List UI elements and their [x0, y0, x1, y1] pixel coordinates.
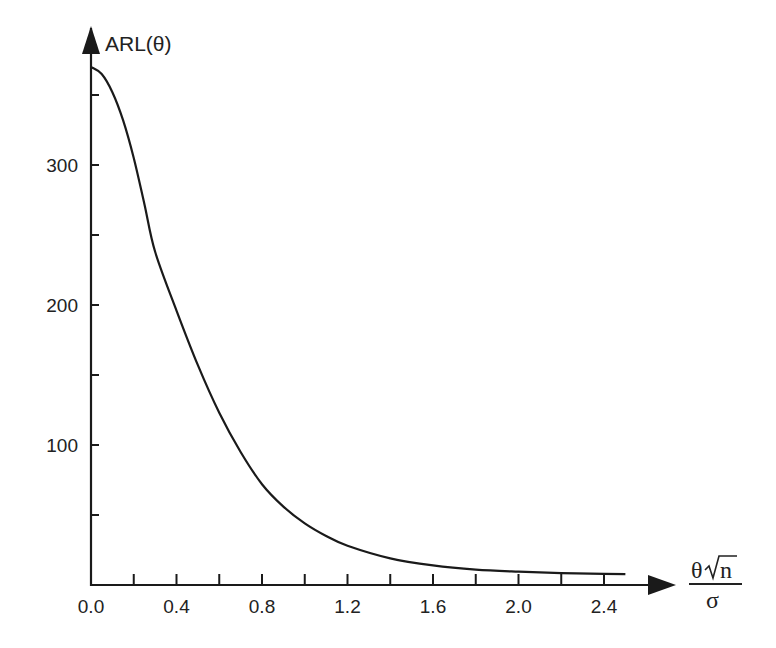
x-tick-label: 2.4: [591, 596, 618, 617]
y-tick-label: 300: [46, 155, 78, 176]
x-tick-label: 0.0: [78, 596, 104, 617]
y-axis-arrow-icon: [82, 26, 100, 54]
x-axis-title-n: n: [720, 557, 732, 583]
x-axis: 0.00.40.81.21.62.02.4: [78, 574, 676, 617]
y-axis-title: ARL(θ): [105, 32, 172, 55]
x-tick-label: 1.2: [334, 596, 360, 617]
arl-curve: [91, 67, 625, 574]
x-axis-title: θ n σ: [689, 556, 742, 613]
y-axis: 100200300: [46, 26, 100, 586]
x-axis-arrow-icon: [648, 575, 676, 595]
x-tick-label: 0.4: [163, 596, 190, 617]
x-tick-label: 1.6: [420, 596, 446, 617]
x-tick-label: 2.0: [505, 596, 531, 617]
y-tick-label: 200: [46, 295, 78, 316]
x-axis-title-theta: θ: [691, 557, 703, 583]
arl-chart: 100200300 0.00.40.81.21.62.02.4 ARL(θ) θ…: [0, 0, 776, 648]
x-tick-label: 0.8: [249, 596, 275, 617]
x-axis-title-denominator: σ: [706, 587, 719, 613]
y-tick-label: 100: [46, 435, 78, 456]
